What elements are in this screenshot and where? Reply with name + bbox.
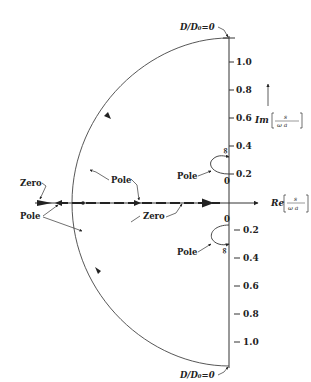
im-label: Im bbox=[254, 115, 269, 125]
real-axis-locus bbox=[37, 199, 220, 208]
tick-label: 0.2 bbox=[236, 169, 252, 179]
bottom-annotation: D/D₀=0 bbox=[179, 367, 228, 380]
small-loop-upper: 0 ∞ bbox=[211, 147, 231, 186]
pole-arc-label: Pole bbox=[111, 175, 132, 185]
fraction-den: ω a bbox=[288, 204, 299, 211]
pole-upper-label: Pole bbox=[177, 171, 198, 181]
tick-label: 1.0 bbox=[236, 57, 252, 67]
tick-label: 0.4 bbox=[236, 141, 252, 151]
small-loop-lower: 0 ∞ bbox=[211, 214, 230, 254]
loop-start-label: 0 bbox=[224, 176, 230, 186]
zero-left-label: Zero bbox=[20, 178, 42, 188]
tick-label: 0.8 bbox=[243, 309, 259, 319]
tick-label: 0.2 bbox=[243, 225, 259, 235]
annotations: Zero Pole Pole Zero Pole Pole bbox=[20, 170, 211, 257]
upper-tick-labels: 1.0 0.8 0.6 0.4 0.2 bbox=[236, 57, 252, 179]
lower-ticks bbox=[234, 230, 240, 342]
fraction-num: s bbox=[284, 113, 287, 120]
upper-ticks bbox=[229, 62, 234, 174]
lower-tick-labels: 0.2 0.4 0.6 0.8 1.0 bbox=[243, 225, 259, 347]
d-ratio-label: D/D₀=0 bbox=[179, 22, 215, 32]
pole-left-label: Pole bbox=[20, 211, 41, 221]
re-label: Re bbox=[270, 198, 284, 208]
fraction-den: ω a bbox=[277, 121, 288, 128]
tick-label: 0.6 bbox=[243, 281, 259, 291]
arrow-icon bbox=[37, 200, 52, 206]
imag-axis-label: Im s ω a bbox=[254, 84, 302, 128]
loop-end-label: ∞ bbox=[220, 247, 230, 254]
pole-lower-label: Pole bbox=[177, 247, 198, 257]
fraction-num: s bbox=[294, 195, 297, 202]
loop-end-label: ∞ bbox=[221, 147, 231, 154]
tick-label: 0.4 bbox=[243, 253, 259, 263]
top-annotation: D/D₀=0 bbox=[179, 22, 228, 37]
loop-start-label: 0 bbox=[224, 214, 230, 224]
root-locus-diagram: 1.0 0.8 0.6 0.4 0.2 0.2 0.4 0.6 0.8 1.0 bbox=[0, 0, 311, 382]
arrow-icon bbox=[202, 199, 214, 208]
tick-label: 0.6 bbox=[236, 113, 252, 123]
arrow-icon bbox=[134, 200, 141, 206]
arrow-icon bbox=[55, 200, 62, 206]
d-ratio-label: D/D₀=0 bbox=[179, 370, 215, 380]
tick-label: 0.8 bbox=[236, 85, 252, 95]
imaginary-axis bbox=[223, 36, 235, 368]
real-axis-label: Re s ω a bbox=[270, 195, 308, 212]
tick-label: 1.0 bbox=[243, 337, 259, 347]
zero-axis-label: Zero bbox=[143, 211, 165, 221]
